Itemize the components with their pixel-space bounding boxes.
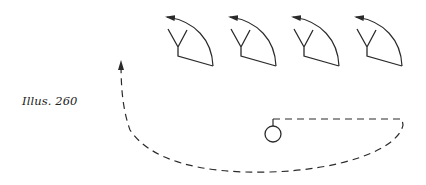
player-figure-2	[230, 17, 276, 66]
player-group	[167, 17, 402, 66]
y-figure-icon	[294, 29, 339, 66]
y-figure-icon	[231, 29, 276, 66]
y-figure-icon	[168, 29, 213, 66]
ball-and-path	[121, 62, 403, 172]
rotation-arrow-icon	[293, 17, 339, 66]
player-figure-4	[356, 17, 402, 66]
dashed-path	[121, 62, 403, 172]
rotation-arrow-icon	[356, 17, 402, 66]
figure-caption: Illus. 260	[22, 94, 77, 108]
ball-circle-icon	[265, 126, 281, 142]
y-figure-icon	[357, 29, 402, 66]
rotation-arrow-icon	[167, 17, 213, 66]
player-figure-3	[293, 17, 339, 66]
illustration-diagram	[0, 0, 426, 185]
player-figure-1	[167, 17, 213, 66]
rotation-arrow-icon	[230, 17, 276, 66]
